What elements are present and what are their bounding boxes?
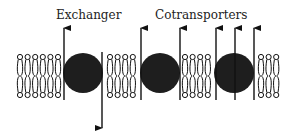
lipid: [123, 54, 128, 97]
lipid: [266, 54, 271, 97]
lipid: [25, 54, 30, 97]
exchanger-label: Exchanger: [56, 8, 122, 22]
exchanger-protein: [63, 53, 103, 93]
lipid: [182, 54, 187, 97]
lipid: [17, 54, 22, 97]
lipid: [274, 54, 279, 97]
lipid: [55, 54, 60, 97]
lipid: [130, 54, 135, 97]
cotransporter-1-protein: [140, 53, 180, 93]
membrane-transport-diagram: Exchanger Cotransporters: [0, 0, 296, 138]
lipid: [205, 54, 210, 97]
lipid: [107, 54, 112, 97]
lipid: [190, 54, 195, 97]
lipid: [198, 54, 203, 97]
lipid: [48, 54, 53, 97]
lipid: [40, 54, 45, 97]
cotransporters-label: Cotransporters: [155, 8, 247, 22]
lipid: [115, 54, 120, 97]
lipid: [258, 54, 263, 97]
transport-proteins: [63, 53, 254, 93]
cotransporter-2-protein: [214, 53, 254, 93]
lipid: [33, 54, 38, 97]
